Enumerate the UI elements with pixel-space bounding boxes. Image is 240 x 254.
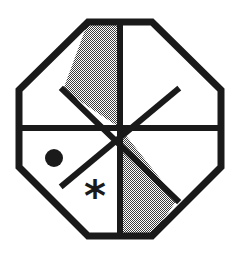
octagon-diagram: * xyxy=(0,0,240,254)
octagon-figure: * xyxy=(0,0,240,254)
asterisk-marker: * xyxy=(84,172,106,221)
dot-marker xyxy=(45,149,63,167)
